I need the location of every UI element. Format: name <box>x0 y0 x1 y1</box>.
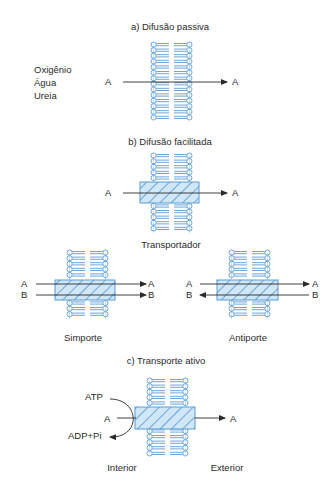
passive-membrane-bilayer <box>151 42 192 120</box>
antiport-right-a-label: A <box>312 279 318 289</box>
transporter-label: Transportador <box>141 240 200 250</box>
antiport-right-b-label: B <box>312 290 318 300</box>
symport-right-a-label: A <box>148 279 154 289</box>
passive-diffusion-title: a) Difusão passiva <box>131 22 209 32</box>
active-transport-title: c) Transporte ativo <box>127 356 206 366</box>
symport-right-b-label: B <box>148 290 154 300</box>
active-transporter-protein <box>135 407 195 429</box>
active-right-a-label: A <box>230 414 236 424</box>
molecule-oxygen-label: Oxigênio <box>34 65 72 75</box>
symport-left-a-label: A <box>21 279 27 289</box>
antiport-label: Antiporte <box>229 333 267 343</box>
exterior-label: Exterior <box>211 463 244 473</box>
symport-label: Simporte <box>64 333 102 343</box>
antiport-left-b-label: B <box>186 290 192 300</box>
adp-pi-label: ADP+Pi <box>68 431 102 441</box>
facilitated-transporter-protein <box>140 182 199 203</box>
molecule-water-label: Água <box>34 78 56 88</box>
facilitated-right-a-label: A <box>232 188 238 198</box>
symport-transporter-protein <box>55 280 115 300</box>
molecule-urea-label: Ureia <box>34 91 57 101</box>
passive-left-a-label: A <box>105 77 111 87</box>
interior-label: Interior <box>107 463 137 473</box>
symport-left-b-label: B <box>21 290 27 300</box>
active-left-a-label: A <box>104 414 110 424</box>
antiport-left-a-label: A <box>186 279 192 289</box>
passive-right-a-label: A <box>232 77 238 87</box>
antiport-transporter-protein <box>217 280 278 300</box>
atp-label: ATP <box>85 392 103 402</box>
facilitated-diffusion-title: b) Difusão facilitada <box>128 137 211 147</box>
facilitated-left-a-label: A <box>105 188 111 198</box>
